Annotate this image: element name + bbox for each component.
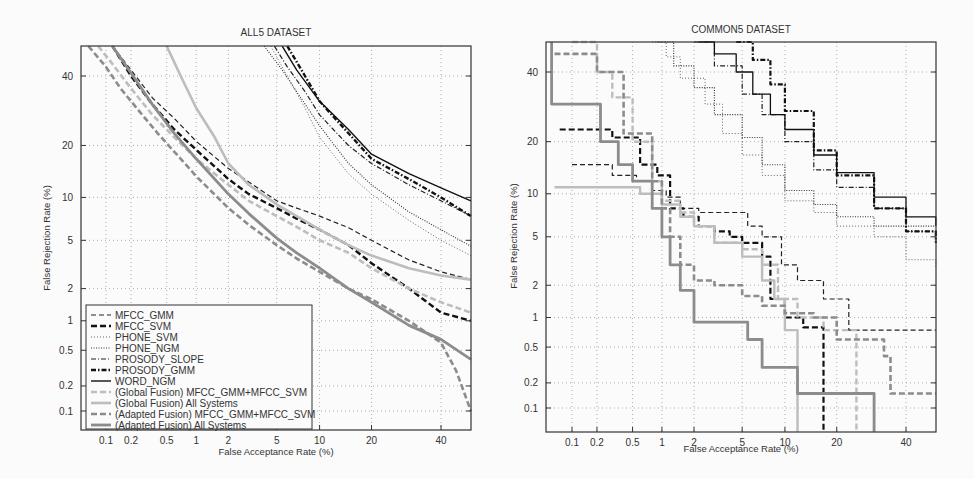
series-global-fusion-all-systems [167, 46, 471, 280]
y-tick-label: 10 [62, 192, 74, 203]
legend-label: PROSODY_GMM [115, 365, 195, 376]
y-tick-label: 1 [532, 312, 538, 323]
y-tick-label: 0.5 [524, 342, 538, 353]
legend-label: (Global Fusion) MFCC_GMM+MFCC_SVM [115, 387, 307, 398]
series-prosody-slope [274, 46, 471, 216]
x-tick-label: 0.5 [160, 435, 174, 446]
x-tick-label: 0.1 [565, 437, 579, 448]
x-tick-label: 20 [366, 435, 378, 446]
x-tick-label: 1 [659, 437, 665, 448]
series-adapted-fusion-all-systems [552, 42, 875, 432]
series-mfcc-svm [560, 130, 824, 432]
y-axis-ticks: 0.10.20.5125102040 [524, 67, 936, 414]
legend-label: MFCC_SVM [115, 321, 171, 332]
y-axis-label: False Rejection Rate (%) [41, 185, 52, 291]
common5-chart: COMMON5 DATASET 0.10.20.5125102040 0.10.… [508, 24, 936, 454]
y-tick-label: 0.2 [59, 380, 73, 391]
chart-title: COMMON5 DATASET [691, 24, 791, 35]
y-tick-label: 20 [527, 136, 539, 147]
x-tick-label: 2 [226, 435, 232, 446]
x-axis-label: False Acceptance Rate (%) [683, 443, 798, 454]
y-tick-label: 2 [532, 280, 538, 291]
y-tick-label: 40 [62, 71, 74, 82]
y-tick-label: 0.2 [524, 377, 538, 388]
legend-label: MFCC_GMM [115, 310, 174, 321]
series-adapted-fusion-mfcc-gmm-mfcc-svm [555, 54, 936, 394]
y-tick-label: 1 [67, 315, 73, 326]
y-tick-label: 2 [67, 283, 73, 294]
y-tick-label: 0.1 [59, 406, 73, 417]
x-tick-label: 1 [193, 435, 199, 446]
x-tick-label: 0.2 [590, 437, 604, 448]
x-tick-label: 40 [435, 435, 447, 446]
y-tick-label: 0.1 [524, 403, 538, 414]
series-phone-ngm [657, 42, 936, 226]
legend-label: PHONE_SVM [115, 332, 178, 343]
legend: MFCC_GMMMFCC_SVMPHONE_SVMPHONE_NGMPROSOD… [86, 305, 315, 431]
y-tick-label: 0.5 [59, 345, 73, 356]
series-global-fusion-mfcc-gmm-mfcc-svm [98, 46, 471, 313]
x-tick-label: 10 [314, 435, 326, 446]
x-tick-label: 20 [831, 437, 843, 448]
series-mfcc-gmm [572, 165, 936, 330]
y-tick-label: 10 [527, 188, 539, 199]
y-tick-label: 5 [532, 231, 538, 242]
y-tick-label: 20 [62, 140, 74, 151]
x-tick-label: 0.2 [124, 435, 138, 446]
series-lines [552, 42, 936, 432]
series-phone-svm [652, 42, 936, 268]
x-tick-label: 0.5 [626, 437, 640, 448]
chart-title: ALL5 DATASET [241, 27, 312, 38]
y-tick-label: 5 [67, 235, 73, 246]
x-tick-label: 5 [274, 435, 280, 446]
legend-label: PROSODY_SLOPE [115, 354, 204, 365]
legend-label: (Global Fusion) All Systems [115, 398, 238, 409]
x-axis-label: False Acceptance Rate (%) [218, 446, 333, 457]
legend-label: (Adapted Fusion) All Systems [115, 420, 246, 431]
y-axis-label: False Rejection Rate (%) [508, 183, 519, 289]
y-tick-label: 40 [527, 67, 539, 78]
series-word-ngm [282, 46, 471, 201]
x-tick-label: 0.1 [99, 435, 113, 446]
series-word-ngm [699, 42, 936, 226]
legend-label: WORD_NGM [115, 376, 176, 387]
series-global-fusion-all-systems [555, 187, 798, 431]
legend-label: (Adapted Fusion) MFCC_GMM+MFCC_SVM [115, 409, 315, 420]
x-tick-label: 40 [900, 437, 912, 448]
det-figure: ALL5 DATASET 0.10.20.5125102040 0.10.20.… [0, 0, 974, 479]
legend-label: PHONE_NGM [115, 343, 179, 354]
all5-chart: ALL5 DATASET 0.10.20.5125102040 0.10.20.… [41, 27, 471, 457]
series-mfcc-gmm [112, 46, 471, 280]
